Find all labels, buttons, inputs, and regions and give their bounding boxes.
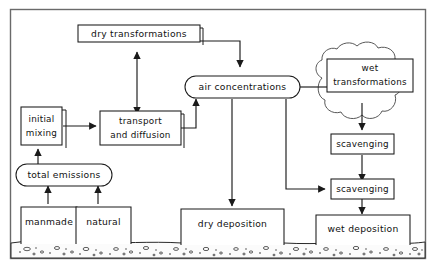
node-scavenging-below-label: scavenging: [336, 184, 389, 194]
node-wet-deposition[interactable]: wet deposition: [316, 215, 410, 245]
node-total-emissions-label: total emissions: [27, 169, 100, 180]
node-natural-label: natural: [86, 216, 121, 227]
node-transport-label-line2: and diffusion: [110, 130, 170, 140]
node-initial-mixing-label-line2: mixing: [26, 128, 57, 138]
node-dry-transformations-label: dry transformations: [91, 28, 187, 39]
node-natural[interactable]: natural: [76, 207, 131, 244]
node-transport-and-diffusion[interactable]: transport and diffusion: [100, 111, 184, 148]
node-dry-transformations[interactable]: dry transformations: [78, 25, 203, 45]
node-scavenging-cloud[interactable]: scavenging: [331, 134, 394, 154]
node-dry-deposition[interactable]: dry deposition: [181, 209, 284, 245]
node-scavenging-cloud-label: scavenging: [336, 139, 389, 149]
node-wet-transformations-label-line1: wet: [362, 63, 379, 73]
flow-diagram-svg: dry transformations air concentrations i…: [0, 0, 435, 269]
node-transport-label-line1: transport: [119, 116, 162, 126]
node-wet-deposition-label: wet deposition: [327, 223, 398, 234]
edge-air-concentrations-to-scavenging-below: [286, 99, 325, 189]
node-wet-transformations[interactable]: wet transformations: [327, 59, 413, 92]
node-manmade[interactable]: manmade: [21, 207, 77, 244]
node-initial-mixing[interactable]: initial mixing: [21, 107, 66, 148]
connector-group: [38, 41, 362, 214]
edge-dry-transformations-to-air-concentrations: [200, 41, 240, 67]
node-dry-deposition-label: dry deposition: [198, 218, 267, 229]
node-air-concentrations-label: air concentrations: [199, 81, 287, 92]
flow-diagram-canvas: dry transformations air concentrations i…: [0, 0, 435, 269]
node-air-concentrations[interactable]: air concentrations: [185, 76, 300, 98]
node-manmade-label: manmade: [25, 216, 73, 227]
node-wet-transformations-label-line2: transformations: [333, 77, 407, 87]
node-initial-mixing-label-line1: initial: [29, 114, 55, 124]
node-scavenging-below[interactable]: scavenging: [331, 179, 394, 199]
node-total-emissions[interactable]: total emissions: [16, 164, 112, 186]
